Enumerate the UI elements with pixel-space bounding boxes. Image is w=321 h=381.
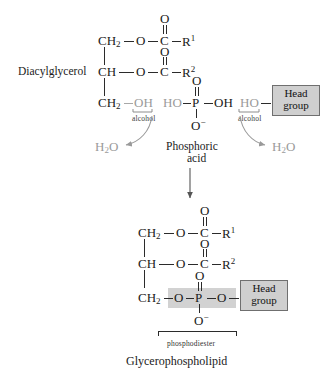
curved-arrow-water-left [126, 116, 152, 145]
arrow-overlay [0, 0, 321, 381]
curved-arrow-water-right [240, 116, 265, 145]
figure-canvas: Diacylglycerol CH2 O C O R1 CH O C O R2 … [0, 0, 321, 381]
alcohol-bracket-left [133, 109, 152, 112]
alcohol-bracket-right [239, 109, 259, 112]
